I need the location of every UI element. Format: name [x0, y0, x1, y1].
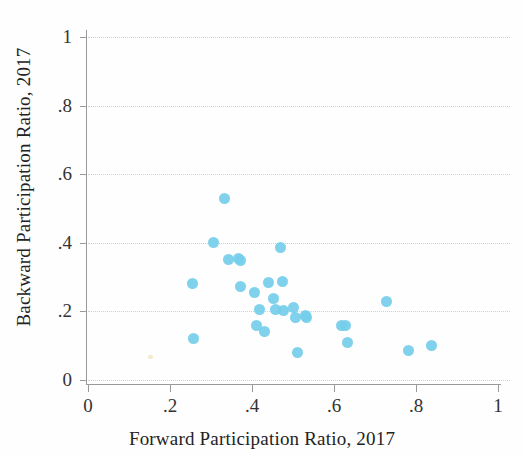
stray-mark — [148, 355, 153, 359]
y-gridline — [88, 37, 510, 38]
x-tick-mark — [252, 385, 253, 392]
y-gridline — [88, 174, 510, 175]
data-point — [292, 347, 303, 358]
data-point — [268, 293, 279, 304]
data-point — [277, 276, 288, 287]
y-tick-mark — [80, 243, 87, 244]
scatter-plot-figure: Backward Participation Ratio, 2017 Forwa… — [0, 0, 524, 457]
y-gridline — [88, 380, 510, 381]
y-tick-label: .8 — [32, 96, 72, 115]
y-gridline — [88, 106, 510, 107]
x-tick-mark — [170, 385, 171, 392]
x-tick-label: .8 — [396, 396, 436, 415]
y-tick-label: 0 — [32, 370, 72, 389]
plot-area — [88, 37, 498, 380]
y-tick-mark — [80, 380, 87, 381]
x-tick-mark — [334, 385, 335, 392]
data-point — [249, 287, 260, 298]
x-tick-label: .2 — [150, 396, 190, 415]
data-point — [290, 312, 301, 323]
data-point — [188, 333, 199, 344]
x-tick-mark — [416, 385, 417, 392]
y-tick-label: .6 — [32, 164, 72, 183]
data-point — [254, 304, 265, 315]
y-axis-line — [86, 30, 87, 385]
data-point — [381, 296, 392, 307]
x-tick-mark — [498, 385, 499, 392]
y-gridline — [88, 311, 510, 312]
x-tick-label: .6 — [314, 396, 354, 415]
y-gridline — [88, 243, 510, 244]
y-tick-label: .2 — [32, 301, 72, 320]
y-tick-mark — [80, 311, 87, 312]
x-axis-title: Forward Participation Ratio, 2017 — [0, 428, 524, 450]
data-point — [223, 254, 234, 265]
y-tick-mark — [80, 106, 87, 107]
x-tick-label: 0 — [68, 396, 108, 415]
x-tick-mark — [88, 385, 89, 392]
data-point — [259, 326, 270, 337]
y-tick-mark — [80, 174, 87, 175]
y-tick-mark — [80, 37, 87, 38]
data-point — [208, 237, 219, 248]
y-tick-label: .4 — [32, 233, 72, 252]
x-tick-label: 1 — [478, 396, 518, 415]
y-tick-label: 1 — [32, 27, 72, 46]
x-axis-line — [86, 384, 501, 385]
x-tick-label: .4 — [232, 396, 272, 415]
